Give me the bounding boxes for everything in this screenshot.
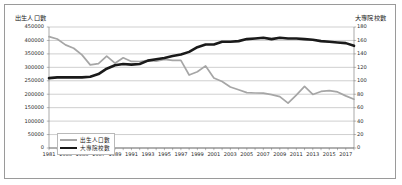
x-tick: 2005: [238, 152, 256, 157]
x-tick: 1999: [188, 152, 206, 157]
series-lines: [49, 37, 354, 103]
y-tick-right: 40: [357, 119, 363, 124]
legend-swatch-births-icon: [60, 139, 77, 141]
x-tick: 1995: [155, 152, 173, 157]
x-tick: 2017: [337, 152, 355, 157]
y-tick-left: 50000: [28, 132, 44, 137]
x-tick: 2015: [320, 152, 338, 157]
y-tick-left: 450000: [25, 24, 44, 29]
legend-label-colleges: 大專院校數: [80, 144, 110, 152]
x-tick: 1997: [172, 152, 190, 157]
x-tick: 1993: [139, 152, 157, 157]
x-tick: 2011: [287, 152, 305, 157]
y-tick-left: 200000: [25, 92, 44, 97]
legend-swatch-colleges-icon: [60, 147, 77, 149]
y-tick-right: 120: [357, 65, 367, 70]
x-tick: 1991: [122, 152, 140, 157]
y-tick-right: 80: [357, 92, 363, 97]
y-tick-right: 100: [357, 78, 367, 83]
y-tick-right: 60: [357, 105, 363, 110]
legend-item-births: 出生人口數: [60, 136, 110, 144]
x-tick: 1981: [40, 152, 58, 157]
y-tick-right: 180: [357, 24, 367, 29]
y-tick-left: 350000: [25, 51, 44, 56]
y-tick-right: 20: [357, 132, 363, 137]
x-tick: 2007: [254, 152, 272, 157]
y-tick-right: 160: [357, 38, 367, 43]
y-tick-left: 150000: [25, 105, 44, 110]
x-tick: 2001: [205, 152, 223, 157]
y-tick-right: 0: [357, 145, 360, 150]
y-tick-left: 250000: [25, 78, 44, 83]
legend-label-births: 出生人口數: [80, 136, 110, 144]
legend-item-colleges: 大專院校數: [60, 144, 110, 152]
x-tick: 2009: [271, 152, 289, 157]
chart-legend: 出生人口數 大專院校數: [57, 133, 115, 155]
x-tick: 2013: [304, 152, 322, 157]
chart-frame: 出生人口數 大專院校數 4500004000003500003000002500…: [4, 4, 396, 179]
y-tick-left: 0: [41, 145, 44, 150]
y-tick-left: 400000: [25, 38, 44, 43]
y-tick-left: 300000: [25, 65, 44, 70]
y-tick-left: 100000: [25, 119, 44, 124]
y-tick-right: 140: [357, 51, 367, 56]
x-tick: 2003: [221, 152, 239, 157]
